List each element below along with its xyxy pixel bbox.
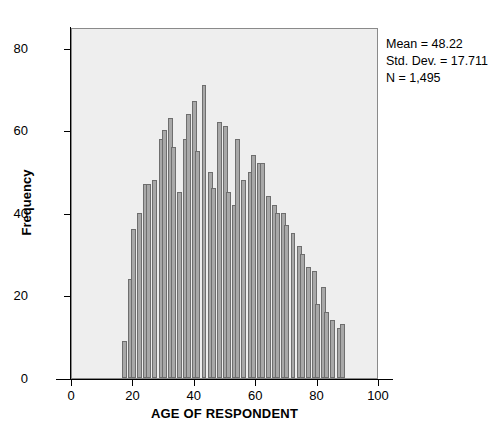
x-tick-label: 60 xyxy=(235,389,275,403)
x-tick-label: 20 xyxy=(112,389,152,403)
x-axis-line xyxy=(56,379,393,380)
x-tick-mark xyxy=(255,380,256,386)
y-tick-mark xyxy=(64,131,70,132)
x-tick-mark xyxy=(71,380,72,386)
x-tick-label: 40 xyxy=(174,389,214,403)
plot-area xyxy=(72,29,377,378)
y-tick-label: 20 xyxy=(0,289,28,302)
x-axis-title: AGE OF RESPONDENT xyxy=(71,406,378,421)
histogram-bar xyxy=(315,304,320,378)
histogram-bar xyxy=(275,213,280,378)
plot-frame xyxy=(71,28,378,379)
histogram-bar xyxy=(260,163,265,378)
x-tick-label: 100 xyxy=(358,389,398,403)
y-tick-group: 20 xyxy=(0,296,70,297)
y-tick-mark xyxy=(64,296,70,297)
histogram-bar xyxy=(152,180,157,378)
x-tick-mark xyxy=(194,380,195,386)
y-axis-line xyxy=(70,27,71,380)
histogram-bar xyxy=(195,151,200,378)
x-tick-label: 0 xyxy=(51,389,91,403)
y-tick-group: 60 xyxy=(0,131,70,132)
histogram-bar xyxy=(324,312,329,378)
y-tick-group: 80 xyxy=(0,49,70,50)
histogram-bar xyxy=(241,180,246,378)
histogram-bar xyxy=(300,254,305,378)
y-tick-group: 40 xyxy=(0,214,70,215)
histogram-bar xyxy=(137,213,142,378)
y-tick-label: 80 xyxy=(0,42,28,55)
y-tick-label: 0 xyxy=(0,372,28,385)
histogram-bar xyxy=(226,192,231,378)
histogram-bar xyxy=(291,233,296,378)
histogram-bar xyxy=(340,324,345,378)
mean-label: Mean = 48.22 xyxy=(386,36,488,53)
n-label: N = 1,495 xyxy=(386,70,488,87)
y-tick-label: 60 xyxy=(0,124,28,137)
y-tick-mark xyxy=(64,214,70,215)
x-tick-label: 80 xyxy=(297,389,337,403)
histogram-bar xyxy=(284,225,289,378)
histogram-bar xyxy=(251,155,256,378)
x-tick-mark xyxy=(132,380,133,386)
x-tick-mark xyxy=(378,380,379,386)
histogram-bar xyxy=(217,122,222,378)
histogram-bar xyxy=(162,130,167,378)
histogram-bar xyxy=(306,267,311,378)
histogram-figure: 020406080 020406080100 AGE OF RESPONDENT… xyxy=(0,0,500,434)
histogram-bar xyxy=(177,192,182,378)
histogram-bar xyxy=(330,320,335,378)
histogram-bar xyxy=(131,229,136,378)
histogram-bar xyxy=(186,114,191,378)
histogram-bar xyxy=(122,341,127,378)
histogram-bar xyxy=(266,196,271,378)
histogram-bar xyxy=(235,139,240,379)
statistics-annotation: Mean = 48.22 Std. Dev. = 17.711 N = 1,49… xyxy=(386,36,488,87)
histogram-bar xyxy=(211,188,216,378)
x-tick-mark xyxy=(317,380,318,386)
std-dev-label: Std. Dev. = 17.711 xyxy=(386,53,488,70)
y-tick-mark xyxy=(64,49,70,50)
histogram-bar xyxy=(202,85,207,378)
histogram-bar xyxy=(171,147,176,378)
y-axis-title: Frequency xyxy=(19,148,34,258)
histogram-bar xyxy=(146,184,151,378)
